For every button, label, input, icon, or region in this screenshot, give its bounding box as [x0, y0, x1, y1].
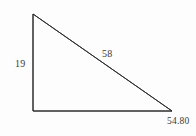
hypotenuse-length-label: 58	[102, 49, 112, 59]
triangle-side-hypotenuse	[33, 14, 172, 111]
base-length-label: 54.80	[167, 117, 189, 127]
vertical-leg-length-label: 19	[15, 59, 25, 69]
diagram-canvas: 19 58 54.80	[0, 0, 196, 136]
